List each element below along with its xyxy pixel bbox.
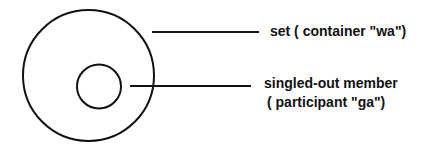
- member-label: singled-out member: [264, 75, 398, 91]
- member-circle: [77, 65, 121, 109]
- set-circle: [23, 10, 154, 141]
- participant-label: ( participant "ga"): [267, 94, 385, 110]
- set-label: set ( container "wa"): [270, 23, 406, 39]
